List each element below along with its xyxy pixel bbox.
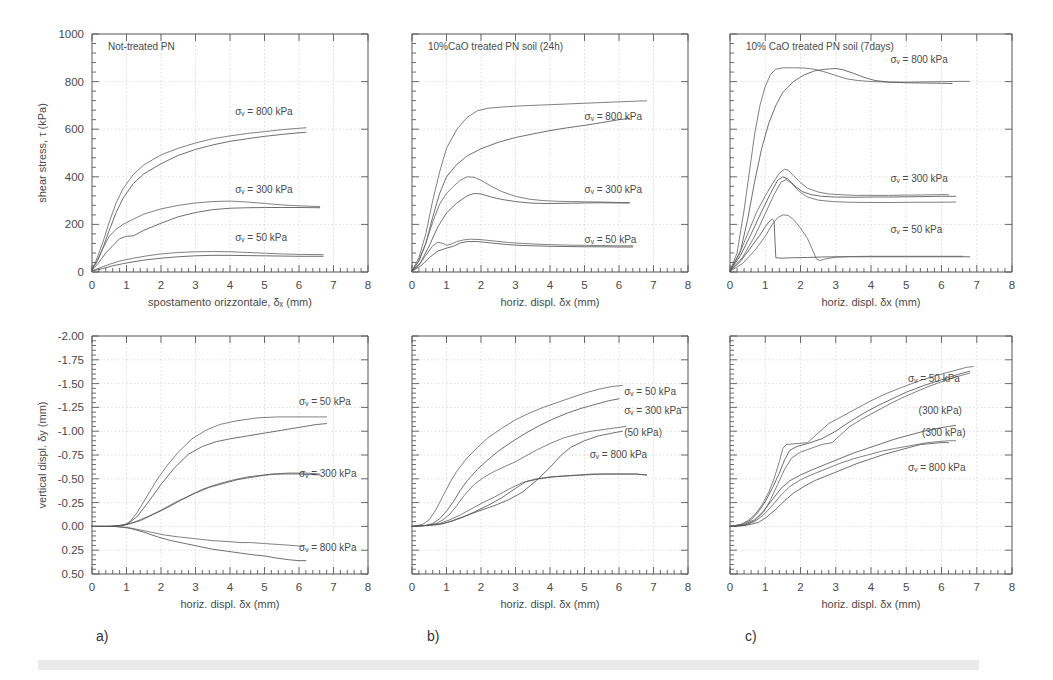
- x-tick-label: 5: [581, 279, 587, 291]
- y-tick-label: -0.50: [58, 473, 84, 485]
- y-tick-label: -1.50: [58, 378, 84, 390]
- x-tick-label: 3: [192, 581, 198, 593]
- panel-label-b: b): [427, 623, 457, 649]
- x-tick-label: 1: [123, 279, 129, 291]
- curve-annotation: σᵥ = 300 kPa: [585, 184, 643, 195]
- x-tick-label: 5: [261, 581, 267, 593]
- y-tick-label: -1.75: [58, 354, 84, 366]
- data-curve: [730, 69, 952, 271]
- x-tick-label: 1: [762, 279, 768, 291]
- curve-annotation: σᵥ = 50 kPa: [585, 234, 637, 245]
- curve-annotation: σᵥ = 800 kPa: [890, 54, 948, 65]
- x-tick-label: 4: [227, 581, 234, 593]
- data-curve: [730, 371, 970, 526]
- x-tick-label: 0: [727, 279, 733, 291]
- panel-label-b-text: b): [427, 628, 439, 644]
- chart-svg-c-bottom: 012345678σᵥ = 50 kPa(300 kPa)(300 kPa)σᵥ…: [640, 318, 1040, 618]
- data-curve: [92, 526, 302, 546]
- panel-title: 10% CaO treated PN soil (7days): [746, 41, 894, 52]
- x-tick-label: 2: [158, 581, 164, 593]
- x-tick-label: 1: [123, 581, 129, 593]
- data-curve: [412, 426, 626, 526]
- panel-title: Not-treated PN: [108, 41, 175, 52]
- y-tick-label: -1.25: [58, 401, 84, 413]
- x-tick-label: 2: [478, 581, 484, 593]
- x-tick-label: 6: [938, 581, 944, 593]
- y-tick-label: 200: [65, 218, 84, 230]
- curve-annotation: σᵥ = 800 kPa: [585, 111, 643, 122]
- x-tick-label: 4: [227, 279, 234, 291]
- x-axis-title: horiz. displ. δx (mm): [500, 598, 599, 610]
- x-tick-label: 1: [443, 279, 449, 291]
- x-tick-label: 0: [89, 581, 95, 593]
- x-tick-label: 0: [409, 279, 415, 291]
- curve-annotation: (300 kPa): [922, 427, 965, 438]
- x-axis-title: horiz. displ. δx (mm): [180, 598, 279, 610]
- x-tick-label: 4: [547, 581, 554, 593]
- x-tick-label: 5: [581, 581, 587, 593]
- curve-annotation: σᵥ = 300 kPa: [235, 184, 293, 195]
- x-tick-label: 3: [512, 279, 518, 291]
- y-tick-label: -0.25: [58, 497, 84, 509]
- x-tick-label: 0: [89, 279, 95, 291]
- x-tick-label: 6: [296, 581, 302, 593]
- curve-annotation: σᵥ = 800 kPa: [908, 462, 966, 473]
- curve-annotation: σᵥ = 50 kPa: [908, 373, 960, 384]
- x-tick-label: 8: [1009, 279, 1015, 291]
- y-tick-label: -0.75: [58, 449, 84, 461]
- data-curve: [730, 68, 970, 271]
- x-tick-label: 0: [409, 581, 415, 593]
- x-axis-title: spostamento orizzontale, δₓ (mm): [148, 296, 312, 308]
- y-tick-label: 0: [78, 266, 84, 278]
- curve-annotation: σᵥ = 800 kPa: [235, 106, 293, 117]
- y-tick-label: 800: [65, 76, 84, 88]
- data-curve: [92, 473, 320, 526]
- curve-annotation: (300 kPa): [919, 405, 962, 416]
- curve-annotation: σᵥ = 50 kPa: [235, 232, 287, 243]
- data-curve: [92, 474, 320, 526]
- x-tick-label: 5: [261, 279, 267, 291]
- data-curve: [412, 242, 633, 272]
- x-tick-label: 4: [868, 279, 875, 291]
- data-curve: [92, 526, 306, 560]
- y-tick-label: -2.00: [58, 330, 84, 342]
- x-tick-label: 6: [296, 279, 302, 291]
- x-tick-label: 0: [727, 581, 733, 593]
- data-curve: [412, 474, 647, 526]
- x-tick-label: 3: [192, 279, 198, 291]
- panel-title: 10%CaO treated PN soil (24h): [428, 41, 563, 52]
- x-axis-title: horiz. displ. δx (mm): [821, 296, 920, 308]
- x-tick-label: 7: [974, 581, 980, 593]
- data-curve: [730, 441, 956, 527]
- data-curve: [730, 169, 949, 271]
- data-curve: [92, 417, 327, 526]
- y-tick-label: -1.00: [58, 425, 84, 437]
- y-axis-title: shear stress, τ (kPa): [36, 103, 48, 203]
- data-curve: [412, 474, 647, 526]
- x-tick-label: 2: [478, 279, 484, 291]
- x-tick-label: 6: [616, 279, 622, 291]
- x-tick-label: 6: [938, 279, 944, 291]
- data-curve: [730, 373, 970, 526]
- x-tick-label: 3: [833, 279, 839, 291]
- panel-label-c: c): [745, 623, 775, 649]
- curve-annotation: σᵥ = 300 kPa: [890, 173, 948, 184]
- x-axis-title: horiz. displ. δx (mm): [500, 296, 599, 308]
- x-axis-title: horiz. displ. δx (mm): [821, 598, 920, 610]
- panel-label-a: a): [96, 623, 126, 649]
- x-tick-label: 1: [762, 581, 768, 593]
- x-tick-label: 6: [616, 581, 622, 593]
- x-tick-label: 2: [158, 279, 164, 291]
- data-curve: [92, 132, 306, 269]
- chart-panel-c-bottom: 012345678σᵥ = 50 kPa(300 kPa)(300 kPa)σᵥ…: [640, 318, 1040, 618]
- y-tick-label: 1000: [58, 28, 84, 40]
- data-curve: [412, 193, 629, 271]
- data-curve: [730, 425, 956, 526]
- caption-line: [38, 660, 1018, 670]
- x-tick-label: 1: [443, 581, 449, 593]
- x-tick-label: 7: [974, 279, 980, 291]
- panel-label-a-text: a): [96, 628, 108, 644]
- y-axis-title: vertical displ. δy (mm): [36, 402, 48, 509]
- x-tick-label: 5: [903, 581, 909, 593]
- curve-annotation: σᵥ = 800 kPa: [590, 449, 648, 460]
